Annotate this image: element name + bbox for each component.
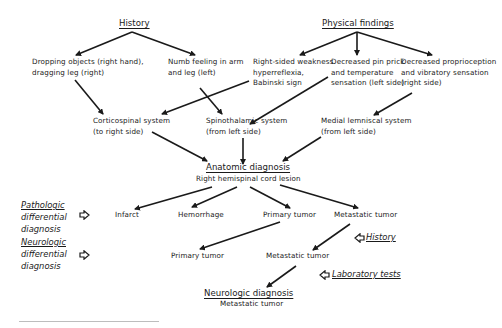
path-item-hemorrhage: Hemorrhage [178,210,224,221]
corticospinal-system: Corticospinal system (to right side) [93,116,170,137]
footnote-rule [19,321,159,322]
neurologic-diagnosis-value: Metastatic tumor [220,299,283,310]
hollow-arrow-right-icon [79,210,90,220]
pathologic-differential-label: Pathologic differential diagnosis [21,199,67,235]
finding-decreased-pin-prick: Decreased pin prick and temperature sens… [331,57,404,89]
hollow-arrow-left-icon [354,233,365,243]
physical-findings-heading: Physical findings [322,18,394,29]
history-item-dropping-objects: Dropping objects (right hand), dragging … [32,57,144,78]
path-item-primary-tumor: Primary tumor [263,210,316,221]
history-heading: History [119,18,150,29]
medial-lemniscal-system: Medial lemniscal system (from left side) [321,116,412,137]
anatomic-diagnosis-value: Right hemispinal cord lesion [196,174,301,185]
history-item-numb-feeling: Numb feeling in arm and leg (left) [168,57,244,78]
finding-decreased-proprioception: Decreased proprioception and vibratory s… [401,57,496,89]
anatomic-diagnosis-title: Anatomic diagnosis [206,162,290,173]
neurologic-differential-label: Neurologic differential diagnosis [21,236,67,272]
neuro-item-primary-tumor: Primary tumor [171,251,224,262]
neuro-item-metastatic-tumor: Metastatic tumor [266,251,329,262]
input-laboratory-tests-label: Laboratory tests [332,268,401,280]
spinothalamic-system: Spinothalamic system (from left side) [206,116,287,137]
path-item-metastatic-tumor: Metastatic tumor [334,210,397,221]
neurologic-diagnosis-title: Neurologic diagnosis [204,288,293,299]
finding-right-sided-weakness: Right-sided weakness hyperreflexia, Babi… [253,57,333,89]
hollow-arrow-left-icon [319,270,330,280]
input-history-label: History [366,231,396,243]
hollow-arrow-right-icon [79,250,90,260]
path-item-infarct: Infarct [115,210,139,221]
